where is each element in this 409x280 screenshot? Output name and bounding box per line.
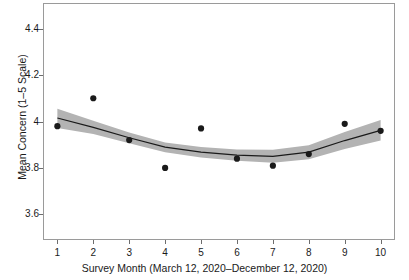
y-axis-tick-mark bbox=[39, 29, 43, 30]
y-axis-tick-label: 3.6 bbox=[13, 209, 39, 219]
data-point bbox=[270, 163, 276, 169]
x-axis-tick-label: 5 bbox=[186, 247, 216, 258]
x-axis-tick-mark bbox=[57, 240, 58, 244]
data-point bbox=[126, 137, 132, 143]
confidence-band bbox=[57, 109, 380, 163]
x-axis-tick-mark bbox=[309, 240, 310, 244]
x-axis-title: Survey Month (March 12, 2020–December 12… bbox=[0, 262, 409, 274]
x-axis-tick-label: 3 bbox=[114, 247, 144, 258]
plot-canvas bbox=[43, 3, 395, 240]
x-axis-tick-label: 10 bbox=[366, 247, 396, 258]
data-point bbox=[162, 165, 168, 171]
y-axis-tick-mark bbox=[39, 75, 43, 76]
y-axis-title: Mean Concern (1–5 Scale) bbox=[16, 37, 28, 197]
data-point bbox=[234, 156, 240, 162]
x-axis-tick-label: 9 bbox=[330, 247, 360, 258]
data-point bbox=[54, 123, 60, 129]
x-axis-tick-mark bbox=[165, 240, 166, 244]
data-point bbox=[90, 95, 96, 101]
x-axis-tick-mark bbox=[345, 240, 346, 244]
x-axis-tick-label: 2 bbox=[78, 247, 108, 258]
x-axis-tick-label: 4 bbox=[150, 247, 180, 258]
x-axis-tick-mark bbox=[381, 240, 382, 244]
chart-figure: 4.44.243.83.6 12345678910 Survey Month (… bbox=[0, 0, 409, 280]
data-point bbox=[342, 121, 348, 127]
x-axis-tick-label: 1 bbox=[42, 247, 72, 258]
y-axis-tick-mark bbox=[39, 122, 43, 123]
x-axis-tick-label: 8 bbox=[294, 247, 324, 258]
x-axis-tick-mark bbox=[273, 240, 274, 244]
y-axis-tick-mark bbox=[39, 214, 43, 215]
data-point bbox=[378, 128, 384, 134]
y-axis-tick-label: 4.4 bbox=[13, 24, 39, 34]
x-axis-tick-mark bbox=[201, 240, 202, 244]
y-axis-tick-mark bbox=[39, 168, 43, 169]
data-point bbox=[198, 125, 204, 131]
x-axis-tick-mark bbox=[129, 240, 130, 244]
data-point bbox=[306, 151, 312, 157]
x-axis-tick-label: 7 bbox=[258, 247, 288, 258]
x-axis-tick-label: 6 bbox=[222, 247, 252, 258]
x-axis-tick-mark bbox=[93, 240, 94, 244]
x-axis-tick-mark bbox=[237, 240, 238, 244]
